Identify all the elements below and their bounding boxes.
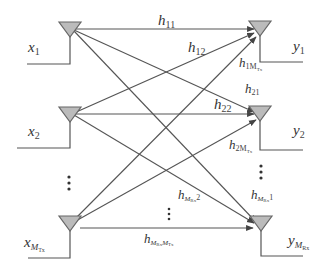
link-ellipsis	[168, 208, 171, 221]
rx-label-1: y1	[291, 38, 305, 56]
channel-links	[73, 29, 256, 228]
channel-label-h21: h21	[245, 81, 260, 97]
channel-label-h22: h22	[214, 96, 232, 114]
tx-label-1: x1	[27, 39, 40, 57]
tx-ellipsis	[67, 175, 70, 190]
antenna-icon	[250, 216, 272, 231]
tx-antenna-2	[17, 107, 81, 148]
antenna-icon	[59, 216, 81, 231]
channel-label-hMM: hMRxMTx	[144, 231, 174, 247]
channel-label-h1m: h1MTx	[239, 55, 263, 72]
mimo-diagram: x1 x2 xMTx y1 y2 yMRx h11 h12 h1MTx h21 …	[0, 0, 330, 270]
tx-label-2: x2	[27, 123, 40, 141]
channel-label-h2m: h2MTx	[229, 137, 253, 154]
rx-ellipsis	[259, 164, 262, 179]
rx-label-m: yMRx	[286, 232, 309, 251]
channel-label-hM2: hMRx2	[178, 187, 200, 203]
channel-label-h12: h12	[188, 39, 206, 57]
tx-antenna-1	[27, 22, 81, 64]
link-h2M	[74, 120, 256, 222]
link-h21	[74, 30, 254, 112]
link-h12	[74, 33, 254, 113]
tx-label-m: xMTx	[23, 234, 45, 253]
link-hM1	[74, 31, 256, 222]
rx-antenna-m	[250, 216, 303, 256]
channel-label-h11: h11	[158, 12, 175, 30]
rx-label-2: y2	[291, 122, 305, 140]
channel-label-hM1: hMRx1	[251, 187, 273, 203]
